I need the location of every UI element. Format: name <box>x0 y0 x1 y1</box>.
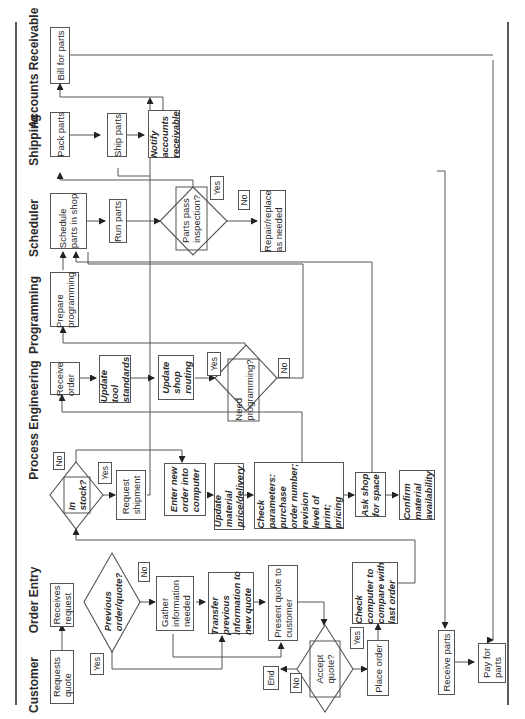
lane-header-order-entry: Order Entry <box>22 560 46 640</box>
node-transfer-previous: Transfer previous information to new quo… <box>208 572 254 634</box>
node-bill-for-parts: Bill for parts <box>50 27 70 84</box>
label-end: End <box>263 666 279 690</box>
label-yes-need-programming: Yes <box>207 352 221 376</box>
node-receives-request: Receives request <box>50 583 74 627</box>
lane-header-programming: Programming <box>22 265 46 365</box>
node-update-tool: Update tool standards <box>99 355 131 403</box>
label-yes-in-stock: Yes <box>98 462 112 484</box>
node-request-shipment: Request shipment <box>116 470 146 520</box>
lane-header-customer: Customer <box>22 655 46 715</box>
node-check-computer: Check computer to compare with last orde… <box>352 562 398 624</box>
label-no-parts-pass: No <box>238 190 250 210</box>
node-gather-information: Gather information needed <box>156 576 194 631</box>
node-accept-quote: Accept quote? <box>310 641 340 697</box>
label-no-need-programming: No <box>278 358 290 378</box>
node-in-stock: In stock? <box>64 477 90 513</box>
node-requests-quote: Requests quote <box>50 650 74 704</box>
node-parts-pass: Parts pass inspection? <box>176 187 207 250</box>
label-no-previous: No <box>138 562 150 582</box>
node-need-programming: Need programming? <box>228 359 259 421</box>
node-previous-order-quote: Previous order/quote? <box>98 570 128 634</box>
swimlane-flowchart: Customer Order Entry Process Engineering… <box>0 0 525 719</box>
node-notify-ar: Notify accounts receivable <box>148 110 180 158</box>
node-update-material: Update material price/delivery <box>214 463 244 530</box>
node-ship-parts: Ship parts <box>107 113 127 157</box>
node-enter-new-order: Enter new order into computer <box>164 463 206 516</box>
node-check-parameters: Check parameters: purchase order number;… <box>254 462 344 529</box>
node-pack-parts: Pack parts <box>50 112 70 157</box>
label-no-in-stock: No <box>53 452 65 470</box>
node-repair-replace: Repair/replace as needed <box>260 190 286 252</box>
label-yes-parts-pass: Yes <box>210 176 224 200</box>
connector-lines <box>0 0 525 719</box>
node-place-order: Place order <box>367 640 389 696</box>
node-ask-shop: Ask shop for space <box>355 472 386 517</box>
node-receive-parts: Receive parts <box>438 630 455 695</box>
node-receive-order: Receive order <box>50 362 80 395</box>
label-no-accept: No <box>290 673 302 693</box>
node-pay-for-parts: Pay for parts <box>478 643 506 683</box>
node-update-shop-routing: Update shop routing <box>158 355 194 400</box>
node-prepare-programming: Prepare programming <box>50 272 79 327</box>
label-yes-previous: Yes <box>90 653 104 675</box>
node-run-parts: Run parts <box>109 199 127 243</box>
label-yes-accept: Yes <box>350 627 364 649</box>
node-confirm-material: Confirm material availability <box>399 470 435 520</box>
lane-header-scheduler: Scheduler <box>22 188 46 268</box>
node-schedule-parts: Schedule parts in shop <box>50 193 87 249</box>
lane-header-process-engineering: Process Engineering <box>22 350 46 490</box>
node-present-quote: Present quote to customer <box>268 565 298 641</box>
lane-header-accounts-receivable: Accounts Receivable <box>22 18 46 118</box>
